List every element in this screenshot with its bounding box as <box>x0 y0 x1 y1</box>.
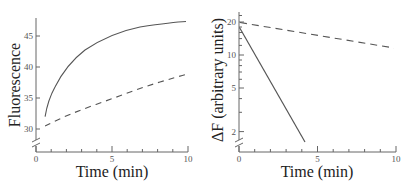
svg-text:0: 0 <box>34 154 39 164</box>
right-x-axis-title: Time (min) <box>281 163 354 181</box>
svg-text:2: 2 <box>232 127 237 137</box>
left-y-tick-labels: 45 40 35 30 <box>24 31 34 134</box>
svg-text:0: 0 <box>237 154 242 164</box>
svg-text:10: 10 <box>227 50 237 60</box>
right-y-tick-labels: 20 10 5 2 <box>227 17 237 137</box>
right-series-dashed <box>240 23 394 49</box>
figure: 45 40 35 30 0 5 10 Time (min) Fluorescen… <box>0 0 409 181</box>
left-series-solid <box>45 22 186 117</box>
svg-text:30: 30 <box>24 124 34 134</box>
left-x-axis-title: Time (min) <box>76 163 149 181</box>
svg-text:45: 45 <box>24 31 34 41</box>
left-series-dashed <box>45 75 186 127</box>
svg-text:5: 5 <box>232 83 237 93</box>
svg-text:35: 35 <box>24 93 34 103</box>
svg-text:10: 10 <box>392 154 402 164</box>
left-chart <box>32 18 188 152</box>
right-series-solid <box>240 28 306 143</box>
right-chart <box>235 12 396 152</box>
svg-text:20: 20 <box>227 17 237 27</box>
svg-text:10: 10 <box>184 154 194 164</box>
right-y-axis-title: ΔF (arbitrary units) <box>209 18 227 142</box>
svg-text:40: 40 <box>24 62 34 72</box>
left-y-axis-title: Fluorescence <box>6 43 23 127</box>
